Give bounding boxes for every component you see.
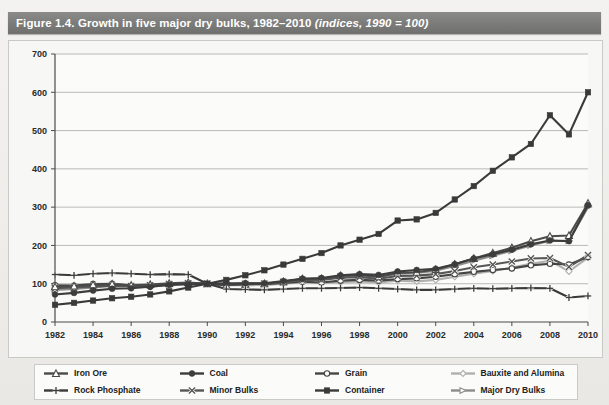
x-tick-label: 2010 xyxy=(578,330,598,340)
legend-marker-filled-square xyxy=(314,385,340,396)
marker-filled-square xyxy=(147,292,152,297)
legend-label: Rock Phosphate xyxy=(74,386,141,395)
marker-open-circle xyxy=(509,266,514,271)
marker-filled-square xyxy=(357,237,362,242)
marker-filled-circle xyxy=(414,267,420,273)
marker-filled-circle xyxy=(166,282,172,288)
legend-label: Bauxite and Alumina xyxy=(481,369,565,378)
marker-filled-square xyxy=(585,90,590,95)
marker-filled-square xyxy=(300,256,305,261)
chart-card: 0100200300400500600700198219841986198819… xyxy=(8,40,603,358)
marker-filled-circle xyxy=(147,284,153,290)
marker-filled-circle xyxy=(509,247,515,253)
legend-label: Grain xyxy=(345,369,367,378)
legend-item-minor-bulks[interactable]: Minor Bulks xyxy=(171,385,307,396)
legend-label: Iron Ore xyxy=(74,369,107,378)
legend-swatch xyxy=(43,368,69,379)
legend-marker-open-circle xyxy=(314,368,340,379)
figure-title-main: Figure 1.4. Growth in five major dry bul… xyxy=(16,17,315,29)
marker-filled-square xyxy=(319,250,324,255)
marker-filled-square xyxy=(509,155,514,160)
legend-item-bauxite-and-alumina[interactable]: Bauxite and Alumina xyxy=(442,368,578,379)
legend-swatch xyxy=(450,385,476,396)
marker-filled-circle xyxy=(338,272,344,278)
legend-label: Minor Bulks xyxy=(210,386,259,395)
legend-swatch xyxy=(314,385,340,396)
marker-filled-square xyxy=(414,217,419,222)
marker-open-circle xyxy=(528,263,533,268)
marker-filled-circle xyxy=(452,261,458,267)
chart-plot-area: 0100200300400500600700198219841986198819… xyxy=(9,41,602,357)
marker-filled-square xyxy=(376,231,381,236)
x-tick-label: 1994 xyxy=(273,330,293,340)
marker-filled-square xyxy=(167,289,172,294)
marker-filled-circle xyxy=(433,266,439,272)
marker-filled-circle xyxy=(52,292,58,298)
marker-filled-circle xyxy=(128,285,134,291)
marker-filled-circle xyxy=(395,269,401,275)
x-tick-label: 1988 xyxy=(159,330,179,340)
marker-filled-circle xyxy=(566,238,572,244)
marker-filled-square xyxy=(71,300,76,305)
marker-filled-circle xyxy=(109,286,115,292)
marker-filled-square xyxy=(109,296,114,301)
marker-open xyxy=(460,388,466,394)
y-tick-label: 100 xyxy=(32,279,47,289)
legend-label: Coal xyxy=(210,369,228,378)
legend-marker-plus xyxy=(43,385,69,396)
legend-grid: Iron OreCoalGrainBauxite and AluminaRock… xyxy=(35,365,577,399)
x-tick-label: 1986 xyxy=(121,330,141,340)
x-tick-label: 1992 xyxy=(235,330,255,340)
marker-filled-circle xyxy=(90,288,96,294)
marker-filled-circle xyxy=(585,202,591,208)
marker-filled-circle xyxy=(189,371,195,377)
page-background: Figure 1.4. Growth in five major dry bul… xyxy=(0,0,609,405)
marker-filled-square xyxy=(281,262,286,267)
legend-swatch xyxy=(179,368,205,379)
marker-filled-circle xyxy=(71,290,77,296)
marker-filled-square xyxy=(224,277,229,282)
marker-filled-square xyxy=(471,183,476,188)
marker-filled-square xyxy=(566,132,571,137)
figure-title-italic: (indices, 1990 = 100) xyxy=(315,17,429,29)
x-tick-label: 2006 xyxy=(502,330,522,340)
legend-item-grain[interactable]: Grain xyxy=(306,368,442,379)
marker-filled-square xyxy=(395,218,400,223)
marker-filled-square xyxy=(243,273,248,278)
page-title: Figure 1.4. Growth in five major dry bul… xyxy=(8,17,428,29)
y-tick-label: 700 xyxy=(32,49,47,59)
legend-marker-x xyxy=(179,385,205,396)
x-tick-label: 1984 xyxy=(83,330,103,340)
legend-item-rock-phosphate[interactable]: Rock Phosphate xyxy=(35,385,171,396)
marker-filled-square xyxy=(186,285,191,290)
x-tick-label: 2008 xyxy=(540,330,560,340)
y-tick-label: 300 xyxy=(32,202,47,212)
chart-legend: Iron OreCoalGrainBauxite and AluminaRock… xyxy=(34,364,578,400)
marker-open-diamond xyxy=(460,371,466,377)
marker-filled-circle xyxy=(490,251,496,257)
y-tick-label: 500 xyxy=(32,126,47,136)
legend-swatch xyxy=(314,368,340,379)
x-tick-label: 1982 xyxy=(45,330,65,340)
marker-filled-square xyxy=(528,141,533,146)
legend-label: Major Dry Bulks xyxy=(481,386,546,395)
legend-swatch xyxy=(450,368,476,379)
legend-marker-open-triangle xyxy=(43,368,69,379)
legend-item-iron-ore[interactable]: Iron Ore xyxy=(35,368,171,379)
marker-filled-square xyxy=(547,113,552,118)
y-tick-label: 600 xyxy=(32,88,47,98)
marker-filled-square xyxy=(324,388,329,393)
marker-filled-square xyxy=(338,243,343,248)
marker-filled-square xyxy=(205,281,210,286)
legend-item-major-dry-bulks[interactable]: Major Dry Bulks xyxy=(442,385,578,396)
x-tick-label: 2004 xyxy=(464,330,484,340)
legend-item-container[interactable]: Container xyxy=(306,385,442,396)
marker-filled-square xyxy=(452,197,457,202)
x-tick-label: 2000 xyxy=(388,330,408,340)
legend-label: Container xyxy=(345,386,385,395)
x-tick-label: 1998 xyxy=(350,330,370,340)
marker-filled-circle xyxy=(242,280,248,286)
x-tick-label: 1990 xyxy=(197,330,217,340)
legend-swatch xyxy=(43,385,69,396)
legend-item-coal[interactable]: Coal xyxy=(171,368,307,379)
